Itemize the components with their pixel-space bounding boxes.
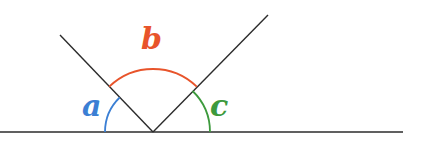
angle-a-arc	[105, 98, 120, 133]
angle-b-arc	[109, 69, 197, 87]
angle-c-label: c	[210, 91, 228, 121]
angle-b-label: b	[141, 24, 162, 54]
angles-on-straight-line-diagram: a b c	[0, 0, 422, 143]
angle-a-label: a	[82, 91, 101, 121]
angle-c-arc	[193, 91, 210, 132]
